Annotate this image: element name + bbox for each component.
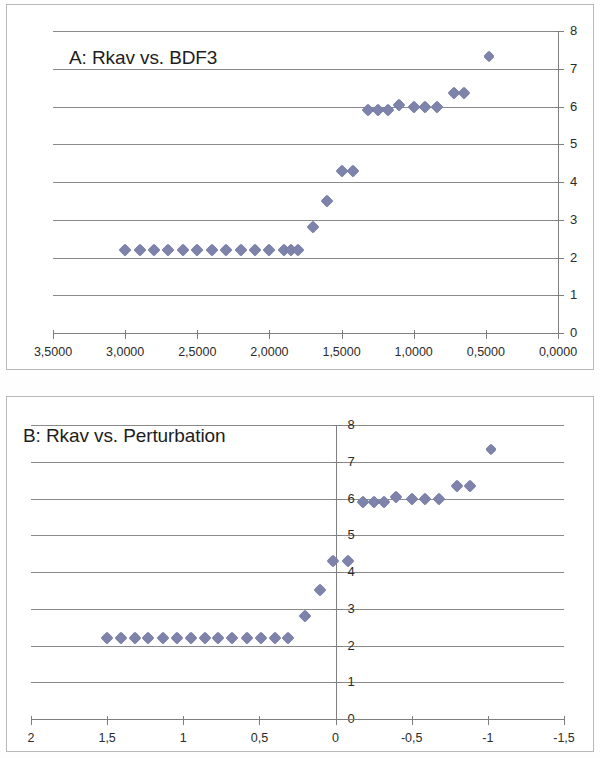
x-tick-label-6: 0,5000 (467, 346, 505, 359)
data-point (433, 492, 446, 505)
x-tick-label-6: -1 (482, 732, 493, 745)
data-point (198, 632, 211, 645)
data-point (249, 244, 262, 257)
data-point (486, 444, 497, 455)
data-point (299, 610, 312, 623)
data-point (326, 555, 339, 568)
x-tick-1 (125, 330, 126, 339)
y-tick-label-8: 8 (570, 24, 577, 37)
x-tick-6 (486, 330, 487, 339)
data-point (212, 632, 225, 645)
data-point (148, 244, 161, 257)
y-tick-label-8: 8 (348, 418, 355, 431)
y-tick-label-6: 6 (348, 492, 355, 505)
gridline-y-8 (53, 31, 558, 32)
data-point (226, 632, 239, 645)
x-tick-4 (342, 330, 343, 339)
y-tick-6 (333, 499, 342, 500)
x-tick-2 (197, 330, 198, 339)
data-point (282, 632, 295, 645)
y-tick-7 (555, 69, 564, 70)
x-tick-label-7: 0,0000 (539, 346, 577, 359)
data-point (430, 100, 443, 113)
data-point (458, 87, 471, 100)
y-tick-label-1: 1 (570, 288, 577, 301)
gridline-y-1 (53, 295, 558, 296)
data-point (119, 244, 132, 257)
y-tick-1 (333, 682, 342, 683)
data-point (171, 632, 184, 645)
gridline-y-6 (31, 499, 564, 500)
x-tick-2 (183, 716, 184, 725)
chart-panel-b: B: Rkav vs. Perturbation 01234567821,510… (6, 396, 594, 752)
data-point (451, 479, 464, 492)
x-tick-label-2: 1 (180, 732, 187, 745)
data-point (419, 492, 432, 505)
data-point (390, 490, 403, 503)
y-tick-1 (555, 295, 564, 296)
x-tick-0 (53, 330, 54, 339)
x-tick-label-4: 0 (332, 732, 339, 745)
data-point (405, 492, 418, 505)
y-tick-4 (333, 572, 342, 573)
figure-page: A: Rkav vs. BDF3 0123456783,50003,00002,… (0, 0, 600, 758)
data-point (128, 632, 141, 645)
data-point (157, 632, 170, 645)
value-axis (336, 425, 337, 719)
x-tick-label-7: -1,5 (553, 732, 575, 745)
gridline-y-1 (31, 682, 564, 683)
data-point (306, 221, 319, 234)
y-tick-5 (555, 144, 564, 145)
x-tick-label-3: 2,0000 (250, 346, 288, 359)
y-tick-label-3: 3 (570, 213, 577, 226)
y-tick-4 (555, 182, 564, 183)
gridline-y-3 (53, 220, 558, 221)
y-tick-2 (333, 646, 342, 647)
data-point (185, 632, 198, 645)
gridline-y-3 (31, 609, 564, 610)
y-tick-label-1: 1 (348, 675, 355, 688)
x-tick-label-1: 1,5 (98, 732, 115, 745)
gridline-y-4 (53, 182, 558, 183)
gridline-y-5 (31, 535, 564, 536)
chart-b-plot-area: 01234567821,510,50-0,5-1-1,5 (31, 425, 564, 719)
y-tick-label-0: 0 (570, 326, 577, 339)
x-tick-5 (412, 716, 413, 725)
y-tick-3 (555, 220, 564, 221)
x-tick-7 (564, 716, 565, 725)
data-point (133, 244, 146, 257)
category-axis (53, 333, 558, 334)
y-tick-label-4: 4 (348, 565, 355, 578)
x-tick-4 (336, 716, 337, 725)
data-point (114, 632, 127, 645)
x-tick-label-0: 3,5000 (34, 346, 72, 359)
data-point (205, 244, 218, 257)
x-tick-label-4: 1,5000 (322, 346, 360, 359)
y-tick-5 (333, 535, 342, 536)
data-point (463, 479, 476, 492)
data-point (191, 244, 204, 257)
gridline-y-2 (31, 646, 564, 647)
data-point (483, 50, 494, 61)
y-tick-7 (333, 462, 342, 463)
gridline-y-4 (31, 572, 564, 573)
y-tick-label-7: 7 (348, 455, 355, 468)
y-tick-label-4: 4 (570, 175, 577, 188)
y-tick-label-5: 5 (348, 528, 355, 541)
y-tick-label-3: 3 (348, 602, 355, 615)
data-point (234, 244, 247, 257)
x-tick-3 (259, 716, 260, 725)
x-tick-3 (269, 330, 270, 339)
y-tick-label-2: 2 (570, 251, 577, 264)
x-tick-label-5: 1,0000 (395, 346, 433, 359)
data-point (241, 632, 254, 645)
data-point (419, 100, 432, 113)
data-point (314, 584, 327, 597)
data-point (321, 195, 334, 208)
data-point (220, 244, 233, 257)
y-tick-2 (555, 258, 564, 259)
y-tick-8 (333, 425, 342, 426)
x-tick-5 (414, 330, 415, 339)
value-axis (558, 31, 559, 333)
data-point (347, 164, 360, 177)
